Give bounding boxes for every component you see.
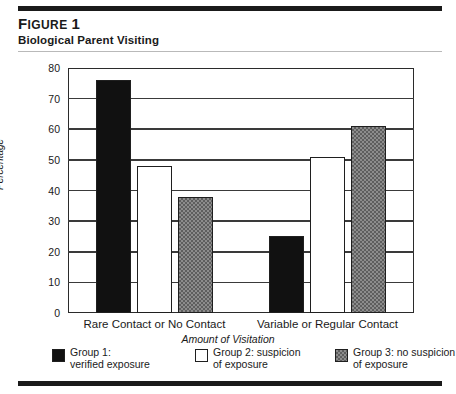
legend-item-group3[interactable]: Group 3: no suspicionof exposure — [335, 347, 455, 370]
y-axis-tick-label: 80 — [30, 62, 60, 74]
bar-series2-cat1 — [137, 166, 172, 313]
legend-label-line2: of exposure — [353, 359, 455, 371]
legend-label-line1: Group 2: suspicion — [213, 347, 301, 359]
bottom-rule-divider — [18, 381, 442, 386]
y-axis-tick-label: 60 — [30, 123, 60, 135]
y-axis-tick-label: 20 — [30, 246, 60, 258]
x-axis-category-label: Variable or Regular Contact — [218, 318, 438, 330]
legend-label-line1: Group 3: no suspicion — [353, 347, 455, 359]
y-axis-tick-label: 40 — [30, 185, 60, 197]
plot-area: 80706050403020100 Percentage Rare Contac… — [0, 0, 456, 394]
chart-legend: Group 1:verified exposureGroup 2: suspic… — [52, 347, 444, 377]
legend-swatch-group2-icon — [195, 349, 208, 362]
y-axis-title: Percentage — [0, 139, 5, 190]
legend-label-group2: Group 2: suspicionof exposure — [213, 347, 301, 370]
legend-label-line2: of exposure — [213, 359, 301, 371]
legend-item-group1[interactable]: Group 1:verified exposure — [52, 347, 150, 370]
legend-swatch-group3-icon — [335, 349, 348, 362]
bar-series3-cat2 — [351, 126, 386, 313]
legend-swatch-group1-icon — [52, 349, 65, 362]
y-axis-tick-label: 30 — [30, 215, 60, 227]
legend-label-line2: verified exposure — [70, 359, 150, 371]
legend-label-line1: Group 1: — [70, 347, 150, 359]
bar-series1-cat1 — [96, 80, 131, 313]
legend-label-group3: Group 3: no suspicionof exposure — [353, 347, 455, 370]
bar-series2-cat2 — [310, 157, 345, 313]
legend-label-group1: Group 1:verified exposure — [70, 347, 150, 370]
x-axis-title: Amount of Visitation — [0, 333, 456, 345]
legend-item-group2[interactable]: Group 2: suspicionof exposure — [195, 347, 301, 370]
y-axis-tick-label: 50 — [30, 154, 60, 166]
y-axis-tick-label: 70 — [30, 93, 60, 105]
bar-series1-cat2 — [269, 236, 304, 313]
bar-series3-cat1 — [178, 197, 213, 313]
figure-container: FIGURE1 Biological Parent Visiting 80706… — [0, 0, 456, 394]
y-axis-tick-label: 10 — [30, 276, 60, 288]
